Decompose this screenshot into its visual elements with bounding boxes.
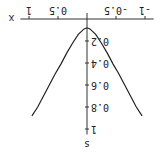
axes [20, 13, 153, 135]
chart-svg: -1-0.50.510.20.40.60.81 x s [0, 0, 160, 167]
x-tick-label: 1 [26, 5, 32, 16]
y-tick-label: 0.6 [91, 80, 109, 91]
x-tick-label: 0.5 [49, 5, 67, 16]
y-tick-label: 1 [91, 124, 97, 135]
y-tick-label: 0.4 [91, 58, 109, 69]
ticks: -1-0.50.510.20.40.60.81 [26, 5, 151, 135]
y-axis-label: s [84, 139, 90, 150]
y-tick-label: 0.8 [91, 102, 109, 113]
x-tick-label: -0.5 [104, 5, 128, 16]
chart-container: -1-0.50.510.20.40.60.81 x s [0, 0, 160, 167]
x-axis-label: x [9, 13, 15, 24]
x-tick-label: -1 [139, 5, 151, 16]
